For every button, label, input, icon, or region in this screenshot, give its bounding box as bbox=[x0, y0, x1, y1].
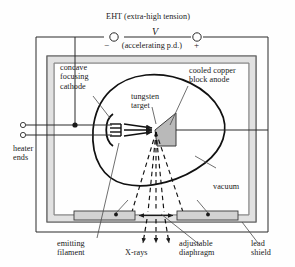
cathode-assembly bbox=[20, 37, 121, 146]
target-label: tungsten target bbox=[131, 92, 159, 111]
voltage-symbol: V bbox=[152, 26, 158, 37]
heater-ends-label: heater ends bbox=[13, 144, 33, 163]
lead-shield-label: lead shield bbox=[251, 239, 271, 258]
cathode-label: concave focusing cathode bbox=[60, 63, 89, 91]
vacuum-label: vacuum bbox=[213, 182, 239, 191]
cathode-junction-dot bbox=[72, 122, 77, 127]
x-ray-emergent-beam bbox=[143, 219, 169, 243]
negative-terminal-node bbox=[110, 33, 118, 41]
accelerating-pd-label: (accelerating p.d.) bbox=[112, 41, 192, 50]
diaphragm-block-left bbox=[74, 211, 135, 220]
negative-terminal-sign: − bbox=[104, 40, 109, 50]
positive-terminal-sign: + bbox=[194, 40, 199, 50]
xrays-label: X-rays bbox=[125, 248, 148, 257]
eht-heading: EHT (extra-high tension) bbox=[83, 12, 213, 21]
heater-terminal-lower bbox=[20, 132, 25, 137]
anode-label: cooled copper block anode bbox=[189, 66, 236, 85]
emitting-filament-label: emitting filament bbox=[57, 239, 85, 258]
xray-tube-diagram: EHT (extra-high tension) V − + (accelera… bbox=[0, 0, 295, 267]
adjustable-diaphragm-label: adjustable diaphragm bbox=[179, 239, 214, 258]
heater-terminal-upper bbox=[20, 122, 25, 127]
